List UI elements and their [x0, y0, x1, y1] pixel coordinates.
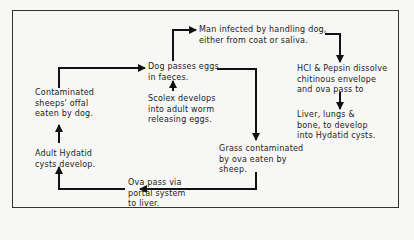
- node-scolex-develops: Scolex develops into adult worm releasin…: [148, 94, 216, 126]
- node-liver-lungs-bone: Liver, lungs & bone, to develop into Hyd…: [297, 110, 376, 142]
- node-grass-contaminated: Grass contaminated by ova eaten by sheep…: [219, 144, 303, 176]
- node-adult-hydatid: Adult Hydatid cysts develop.: [35, 149, 95, 170]
- node-contaminated-offal: Contaminated sheeps' offal eaten by dog.: [35, 88, 94, 120]
- arrow-man-to-hcl: [325, 34, 340, 62]
- arrow-contaminated-to-dog: [59, 68, 145, 88]
- node-ova-pass-portal: Ova pass via portal system to liver.: [128, 178, 186, 210]
- arrow-ova-to-cysts: [59, 167, 125, 189]
- node-dog-passes-eggs: Dog passes eggs in faeces.: [148, 62, 219, 83]
- node-hcl-pepsin: HCl & Pepsin dissolve chitinous envelope…: [297, 64, 387, 96]
- arrow-dog-to-grass: [217, 69, 256, 140]
- arrow-dog-to-man: [173, 30, 196, 61]
- node-man-infected: Man infected by handling dog, either fro…: [199, 25, 327, 46]
